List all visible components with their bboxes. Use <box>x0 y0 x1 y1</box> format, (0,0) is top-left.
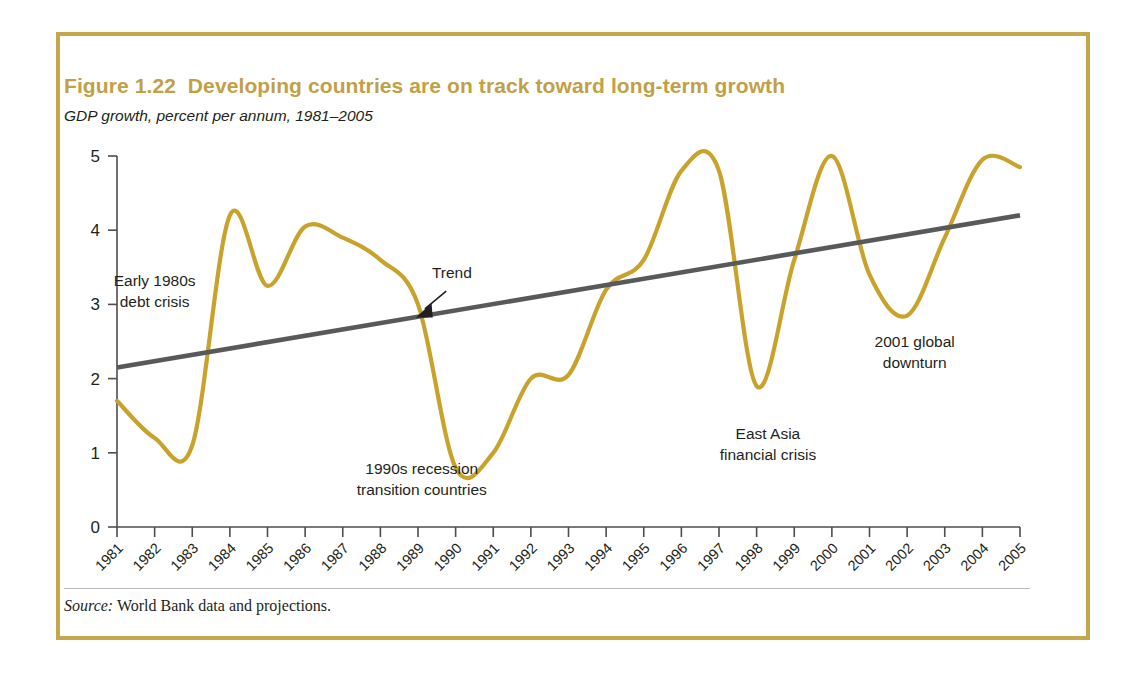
source-divider <box>64 588 1030 589</box>
source-note: Source: World Bank data and projections. <box>64 597 331 615</box>
source-label: Source: <box>64 597 113 614</box>
source-text: World Bank data and projections. <box>113 597 331 614</box>
figure-title: Figure 1.22 Developing countries are on … <box>64 74 785 98</box>
figure-subtitle: GDP growth, percent per annum, 1981–2005 <box>64 107 373 125</box>
